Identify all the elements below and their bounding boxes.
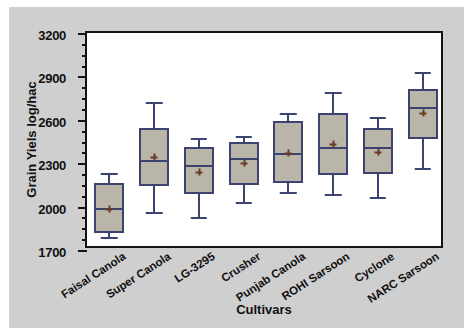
x-tick-label: LG-3295 <box>173 250 218 285</box>
y-tick-minor <box>82 152 87 154</box>
mean-marker-icon <box>330 141 337 148</box>
whisker-cap-lower <box>235 202 252 204</box>
y-tick-minor <box>82 228 87 230</box>
x-axis-title: Cultivars <box>85 302 443 317</box>
y-tick-minor <box>82 131 87 133</box>
whisker-cap-lower <box>280 192 297 194</box>
y-tick-minor <box>82 87 87 89</box>
y-tick-minor <box>82 98 87 100</box>
mean-marker-icon <box>195 168 202 175</box>
whisker-cap-lower <box>101 237 118 239</box>
mean-marker-icon <box>419 109 426 116</box>
box-plot-item <box>363 33 393 246</box>
y-tick-major: 2900 <box>78 76 87 78</box>
whisker-cap-upper <box>191 138 208 140</box>
median-line <box>184 165 214 167</box>
whisker-cap-lower <box>370 197 387 199</box>
whisker-cap-lower <box>191 217 208 219</box>
y-tick-minor <box>82 196 87 198</box>
box-plot-item <box>273 33 303 246</box>
y-tick-major: 2300 <box>78 163 87 165</box>
y-tick-major: 2000 <box>78 207 87 209</box>
y-tick-major: 2600 <box>78 120 87 122</box>
whisker-cap-lower <box>414 168 431 170</box>
figure-canvas: Grain Yiels log/hac 32002900260023002000… <box>9 7 464 328</box>
y-tick-major: 3200 <box>78 33 87 35</box>
y-tick-major: 1700 <box>78 250 87 252</box>
y-tick-minor <box>82 109 87 111</box>
whisker-cap-upper <box>146 102 163 104</box>
whisker-cap-upper <box>280 113 297 115</box>
y-tick-minor <box>82 217 87 219</box>
y-tick-label: 2300 <box>38 158 66 173</box>
y-tick-label: 2600 <box>38 114 66 129</box>
mean-marker-icon <box>151 154 158 161</box>
box-plot-item <box>94 33 124 246</box>
whisker-cap-upper <box>101 173 118 175</box>
whisker-cap-upper <box>325 92 342 94</box>
y-tick-label: 2900 <box>38 71 66 86</box>
box-plot-item <box>139 33 169 246</box>
mean-marker-icon <box>285 150 292 157</box>
box-plot-item <box>229 33 259 246</box>
whisker-cap-lower <box>146 212 163 214</box>
y-tick-minor <box>82 142 87 144</box>
y-tick-minor <box>82 44 87 46</box>
box-plot-item <box>318 33 348 246</box>
plot-area: 320029002600230020001700 Faisal CanolaSu… <box>85 31 443 248</box>
y-tick-minor <box>82 174 87 176</box>
y-tick-label: 2000 <box>38 201 66 216</box>
mean-marker-icon <box>106 205 113 212</box>
box-plot-item <box>184 33 214 246</box>
whisker-cap-upper <box>235 136 252 138</box>
mean-marker-icon <box>374 148 381 155</box>
whisker-cap-upper <box>370 117 387 119</box>
whisker-cap-upper <box>414 72 431 74</box>
whisker-cap-lower <box>325 194 342 196</box>
mean-marker-icon <box>240 160 247 167</box>
y-tick-label: 1700 <box>38 245 66 260</box>
y-tick-minor <box>82 185 87 187</box>
box-plot-item <box>408 33 438 246</box>
y-tick-label: 3200 <box>38 28 66 43</box>
y-tick-minor <box>82 55 87 57</box>
y-tick-minor <box>82 239 87 241</box>
y-tick-minor <box>82 66 87 68</box>
